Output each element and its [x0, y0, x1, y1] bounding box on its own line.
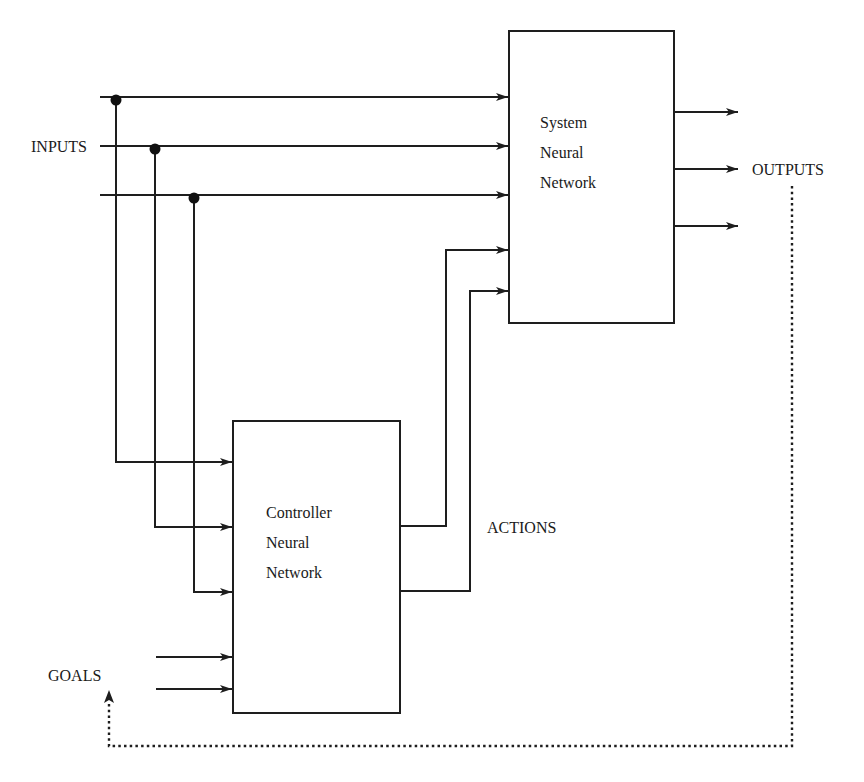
junction-dot-2: [150, 144, 161, 155]
inputs-label: INPUTS: [31, 138, 87, 155]
system-block-label-line2: Neural: [540, 144, 584, 161]
input-branch-1: [116, 100, 232, 462]
action-line-2: [400, 291, 508, 591]
system-block-label-line1: System: [540, 114, 588, 132]
system-block-label-line3: Network: [540, 174, 596, 191]
controller-block-label-line1: Controller: [266, 504, 332, 521]
outputs-label: OUTPUTS: [752, 161, 824, 178]
junction-dot-1: [111, 95, 122, 106]
feedback-dotted-line: [109, 186, 792, 746]
controller-block-label-line3: Network: [266, 564, 322, 581]
controller-block-label-line2: Neural: [266, 534, 310, 551]
system-neural-network-block: System Neural Network: [509, 31, 674, 323]
diagram-canvas: System Neural Network Controller Neural …: [0, 0, 864, 782]
goals-label: GOALS: [48, 667, 101, 684]
actions-label: ACTIONS: [487, 519, 556, 536]
junction-dot-3: [189, 193, 200, 204]
feedback-arrowhead-icon: [104, 690, 114, 703]
input-branch-3: [194, 198, 232, 592]
controller-neural-network-block: Controller Neural Network: [233, 421, 400, 713]
